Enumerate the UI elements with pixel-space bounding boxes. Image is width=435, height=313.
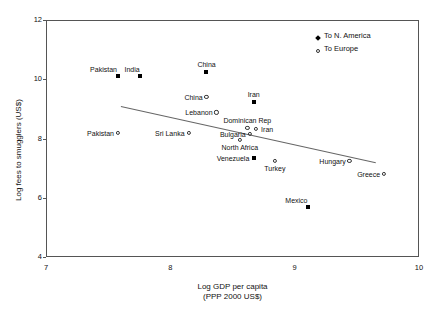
filled-diamond-marker-icon — [252, 156, 256, 160]
x-tick-label: 8 — [155, 264, 185, 272]
data-point-label: Hungary — [319, 158, 345, 165]
data-point-label: North Africa — [221, 144, 258, 151]
scatter-chart: 468101278910 PakistanIndiaChinaIranVenez… — [0, 0, 435, 313]
x-tick-label: 7 — [31, 264, 61, 272]
x-tick-label: 10 — [404, 264, 434, 272]
y-tick-mark — [43, 198, 46, 199]
data-point-label: Greece — [357, 171, 380, 178]
y-tick-mark — [43, 257, 46, 258]
data-point-label: Pakistan — [90, 66, 117, 73]
x-tick-label: 9 — [280, 264, 310, 272]
data-point-label: Iran — [261, 126, 273, 133]
data-point-label: Iran — [248, 91, 260, 98]
legend-label: To Europe — [324, 44, 358, 53]
x-axis-title-line2: (PPP 2000 US$) — [163, 292, 303, 302]
filled-diamond-marker-icon — [138, 74, 142, 78]
data-point-label: Turkey — [264, 165, 285, 172]
data-point-label: Bulgaria — [220, 131, 246, 138]
data-point-label: Mexico — [285, 197, 307, 204]
legend-label: To N. America — [324, 31, 371, 40]
y-tick-mark — [43, 79, 46, 80]
y-axis-title: Log fees to smugglers (US$) — [14, 99, 24, 201]
filled-diamond-marker-icon — [204, 70, 208, 74]
data-point-label: Sri Lanka — [155, 130, 185, 137]
data-point-label: Lebanon — [185, 109, 212, 116]
data-point-label: China — [197, 61, 215, 68]
y-tick-label: 12 — [20, 16, 42, 24]
filled-diamond-marker-icon — [306, 205, 310, 209]
x-axis-title-line1: Log GDP per capita — [163, 282, 303, 292]
data-point-label: India — [124, 66, 139, 73]
data-point-label: Dominican Rep — [223, 117, 271, 124]
y-tick-mark — [43, 139, 46, 140]
y-tick-label: 4 — [20, 253, 42, 261]
x-axis-title: Log GDP per capita (PPP 2000 US$) — [163, 282, 303, 302]
data-point-label: China — [184, 94, 202, 101]
plot-area — [46, 20, 419, 257]
data-point-label: Pakistan — [87, 130, 114, 137]
y-tick-mark — [43, 20, 46, 21]
filled-diamond-marker-icon — [252, 100, 256, 104]
y-tick-label: 10 — [20, 75, 42, 83]
filled-diamond-marker-icon — [116, 74, 120, 78]
data-point-label: Venezuela — [217, 155, 250, 162]
